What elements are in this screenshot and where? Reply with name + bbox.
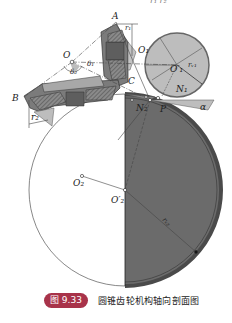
label-O2: O₂ xyxy=(73,178,84,188)
label-P: P xyxy=(159,104,167,114)
label-N2: N₂ xyxy=(135,103,148,113)
label-O2-prime: O′₂ xyxy=(111,195,124,205)
figure-caption: 图 9.33 圆锥齿轮机构轴向剖面图 xyxy=(44,292,199,308)
label-C: C xyxy=(128,76,135,86)
label-A: A xyxy=(111,11,119,21)
label-O1: O₁ xyxy=(138,45,149,55)
figure-title: 圆锥齿轮机构轴向剖面图 xyxy=(98,294,199,307)
label-delta2: δ₂ xyxy=(70,68,77,76)
label-alpha: α xyxy=(200,102,206,112)
label-r1: r₁ xyxy=(125,24,131,32)
label-rv1: rᵥ₁ xyxy=(188,61,197,69)
label-N1: N₁ xyxy=(175,84,187,94)
label-B: B xyxy=(11,93,19,103)
label-r2: r₂ xyxy=(31,112,39,122)
label-O: O xyxy=(63,50,71,60)
figure-number-badge: 图 9.33 xyxy=(44,293,88,308)
label-O1-prime: O′₁ xyxy=(170,64,183,74)
label-delta1: δ₁ xyxy=(87,60,94,68)
bevel-gear-diagram: A B C O O₁ O′₁ O₂ O′₂ N₁ N₂ P α δ₁ δ₂ r₁… xyxy=(0,0,232,290)
